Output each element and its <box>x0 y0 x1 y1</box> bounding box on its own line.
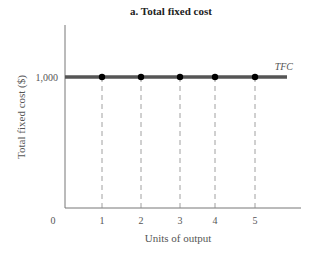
series-label-tfc: TFC <box>275 61 294 72</box>
x-tick-0: 0 <box>51 215 56 226</box>
x-tick-4: 4 <box>213 215 218 226</box>
x-tick-3: 3 <box>178 215 183 226</box>
y-axis-label: Total fixed cost ($) <box>15 75 28 159</box>
tfc-chart: a. Total fixed cost TFC 1,000 0 1 2 3 4 … <box>0 0 318 261</box>
y-tick-1000: 1,000 <box>36 72 59 83</box>
drop-lines <box>102 77 255 208</box>
chart-title: a. Total fixed cost <box>130 5 212 17</box>
x-tick-1: 1 <box>100 215 105 226</box>
x-tick-2: 2 <box>139 215 144 226</box>
x-tick-5: 5 <box>253 215 258 226</box>
x-axis-label: Units of output <box>145 232 212 244</box>
